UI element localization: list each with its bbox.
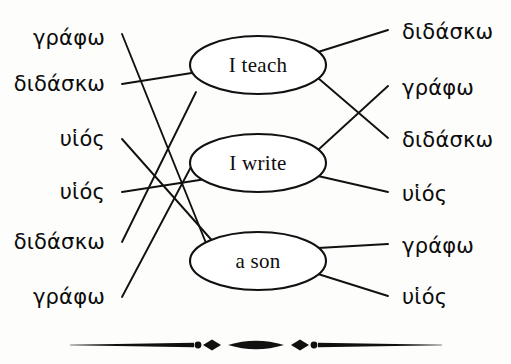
connector-line (318, 176, 388, 192)
connector-line (122, 92, 196, 242)
left-word-5[interactable]: διδάσκω (14, 232, 105, 253)
connector-line (122, 72, 198, 84)
right-word-5[interactable]: γράφω (402, 236, 474, 257)
connector-line (318, 244, 388, 248)
right-word-4[interactable]: υἱός (402, 184, 447, 205)
rule-right-taper (318, 343, 442, 347)
node-label-write: I write (229, 151, 287, 176)
left-word-1[interactable]: γράφω (33, 28, 105, 49)
rule-diamond-2 (291, 340, 309, 351)
rule-dot-2 (311, 342, 318, 349)
rule-left-taper (70, 343, 194, 347)
left-word-6[interactable]: γράφω (33, 287, 105, 308)
left-word-4[interactable]: υἱός (60, 182, 105, 203)
connector-line (318, 30, 388, 52)
rule-dot-1 (195, 342, 202, 349)
connector-line (318, 274, 388, 296)
connector-line (122, 148, 201, 297)
rule-center-lens (228, 341, 284, 350)
node-label-teach: I teach (229, 53, 288, 78)
right-word-1[interactable]: διδάσκω (402, 22, 493, 43)
connector-line (318, 86, 388, 150)
node-label-son: a son (235, 249, 280, 274)
left-word-3[interactable]: υἱός (60, 129, 105, 150)
left-word-2[interactable]: διδάσκω (14, 74, 105, 95)
rule-diamond-1 (203, 340, 221, 351)
right-word-2[interactable]: γράφω (402, 78, 474, 99)
right-word-3[interactable]: διδάσκω (402, 130, 493, 151)
diagram-canvas: γράφωδιδάσκωυἱόςυἱόςδιδάσκωγράφω διδάσκω… (0, 0, 511, 364)
connector-line (318, 78, 388, 138)
decorative-rule (70, 340, 442, 351)
right-word-6[interactable]: υἱός (402, 287, 447, 308)
